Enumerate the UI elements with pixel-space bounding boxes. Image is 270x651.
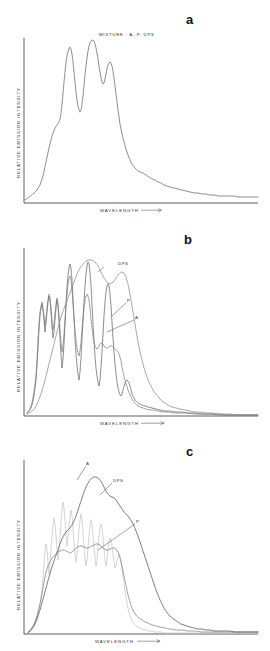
curve-label-dps-c: DPS	[113, 478, 124, 483]
leader-p-c	[98, 524, 135, 550]
leader-p-b	[112, 303, 126, 316]
plot-b: WAVELENGTH RELATIVE EMISSION INTENSITY D…	[0, 220, 270, 432]
curve-a-c	[28, 477, 258, 633]
panel-letter-c: c	[186, 444, 193, 459]
curve-label-a-c: A	[86, 461, 89, 466]
y-axis-label-b: RELATIVE EMISSION INTENSITY	[16, 301, 21, 392]
chart-title-a: MIXTURE : A, P, DPS	[99, 32, 155, 37]
curve-label-p-c: P	[136, 519, 139, 524]
curve-p-b	[27, 276, 258, 415]
axis-frame-b	[24, 248, 258, 416]
panel-b: b WAVELENGTH RELATIVE EMISSION INTENSITY…	[0, 220, 270, 432]
curve-p-c	[28, 544, 258, 632]
curve-a-b	[27, 262, 258, 415]
leader-dps-c	[100, 483, 112, 495]
leader-a-c	[77, 466, 86, 480]
panel-letter-a: a	[186, 12, 193, 27]
panel-letter-b: b	[184, 232, 192, 247]
curve-dps-b	[27, 260, 258, 415]
curve-dps-c	[30, 502, 258, 633]
x-axis-label-c: WAVELENGTH	[95, 639, 134, 644]
x-axis-label-a: WAVELENGTH	[100, 208, 139, 213]
curve-label-p-b: P	[127, 298, 130, 303]
panel-a: a MIXTURE : A, P, DPS WAVELENGTH RELATIV…	[0, 0, 270, 220]
curve-label-dps-b: DPS	[118, 261, 129, 266]
plot-a: MIXTURE : A, P, DPS WAVELENGTH RELATIVE …	[0, 0, 270, 220]
curve-label-a-b: A	[135, 315, 138, 320]
y-axis-label-a: RELATIVE EMISSION INTENSITY	[16, 87, 21, 178]
leader-a-b	[107, 320, 134, 332]
panel-c: c WAVELENGTH RELATIVE EMISSION INTENSITY…	[0, 432, 270, 651]
plot-c: WAVELENGTH RELATIVE EMISSION INTENSITY A…	[0, 432, 270, 651]
x-axis-label-b: WAVELENGTH	[100, 421, 139, 426]
curve-mixture-a	[25, 40, 258, 200]
y-axis-label-c: RELATIVE EMISSION INTENSITY	[16, 519, 21, 610]
